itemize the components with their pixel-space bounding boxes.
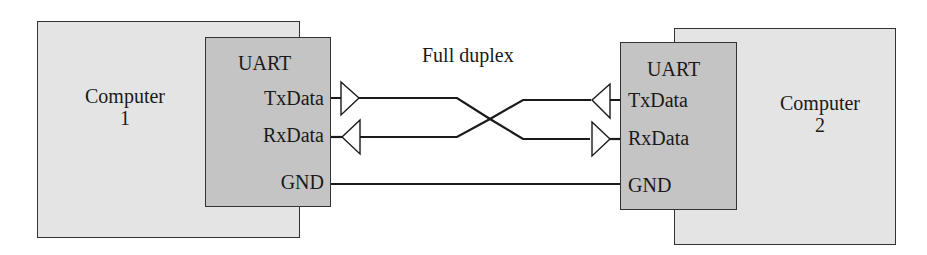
tx2-buffer-icon xyxy=(592,84,610,118)
wiring xyxy=(0,0,927,255)
tx1-buffer-icon xyxy=(341,82,359,115)
rx2-buffer-icon xyxy=(592,122,610,156)
wire-tx1-to-rx2 xyxy=(331,98,590,139)
wire-tx2-to-rx1 xyxy=(360,100,620,137)
rx1-buffer-icon xyxy=(342,120,360,154)
